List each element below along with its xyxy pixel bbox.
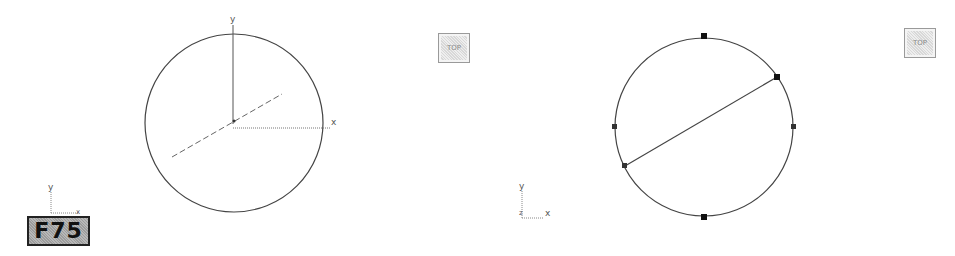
svg-text:y: y — [519, 181, 525, 191]
grip-handle-left[interactable] — [612, 124, 617, 129]
figure-badge: F75 — [27, 216, 90, 246]
svg-text:y: y — [48, 182, 54, 192]
grip-handle-right[interactable] — [791, 124, 796, 129]
grip-handle-diameter-end[interactable] — [774, 74, 780, 80]
diameter-line[interactable] — [625, 77, 777, 166]
circle-outline[interactable] — [145, 34, 323, 212]
center-point — [233, 120, 236, 123]
x-axis-label: x — [331, 117, 337, 127]
svg-text:x: x — [76, 208, 80, 216]
diameter-dashed-line — [172, 94, 282, 157]
view-top-button[interactable]: TOP — [904, 28, 936, 58]
axis-triad-icon: y x z — [519, 181, 551, 218]
grip-handle-diameter-start[interactable] — [622, 163, 627, 168]
grip-handle-top[interactable] — [701, 33, 707, 39]
svg-text:x: x — [545, 208, 551, 218]
right-canvas: y x z — [478, 0, 955, 256]
circle-outline[interactable] — [615, 38, 793, 216]
y-axis-label: y — [230, 14, 236, 24]
grip-handle-bottom[interactable] — [701, 214, 707, 220]
axis-triad-icon: y x — [48, 182, 80, 216]
svg-text:z: z — [519, 209, 523, 217]
right-viewport: y x z TOP — [478, 0, 955, 256]
left-viewport: y x y x TOP F75 — [0, 0, 478, 256]
view-top-button[interactable]: TOP — [438, 33, 470, 63]
